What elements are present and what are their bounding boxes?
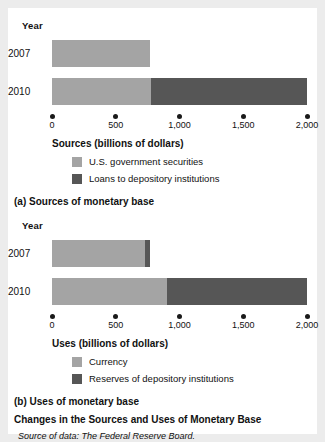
tick-dot-icon <box>177 314 182 319</box>
x-axis-tick-label: 2,000 <box>296 120 319 130</box>
legend-label: Currency <box>89 355 128 369</box>
tick-dot-icon <box>177 114 182 119</box>
tick-dot-icon <box>305 314 310 319</box>
bar-row-year-label: 2010 <box>8 278 46 305</box>
tick-dot-icon <box>241 314 246 319</box>
tick-dot-icon <box>241 114 246 119</box>
stacked-bar <box>52 278 307 305</box>
bar-row: 2007 <box>8 40 317 67</box>
stacked-bar <box>52 40 307 67</box>
legend-color-swatch <box>72 157 82 167</box>
x-axis-tick-label: 0 <box>49 320 54 330</box>
x-axis-uses: 05001,0001,5002,000 <box>52 314 317 336</box>
bar-row-year-label: 2007 <box>8 240 46 267</box>
x-axis-title-sources: Sources (billions of dollars) <box>52 138 184 149</box>
stacked-bar <box>52 78 307 105</box>
x-axis-tick-label: 0 <box>49 120 54 130</box>
x-axis-sources: 05001,0001,5002,000 <box>52 114 317 136</box>
x-axis-tick-label: 1,000 <box>168 120 191 130</box>
x-axis-tick-label: 1,500 <box>232 320 255 330</box>
bar-segment <box>52 78 151 105</box>
bar-row: 2007 <box>8 240 317 267</box>
legend-color-swatch <box>72 174 82 184</box>
figure-title: Changes in the Sources and Uses of Monet… <box>14 414 261 425</box>
bar-row: 2010 <box>8 78 317 105</box>
legend-color-swatch <box>72 374 82 384</box>
tick-dot-icon <box>305 114 310 119</box>
plot-area-uses: 20072010 <box>8 240 317 312</box>
figure-panel: Year 20072010 05001,0001,5002,000 Source… <box>8 8 317 434</box>
x-axis-tick-label: 2,000 <box>296 320 319 330</box>
plot-area-sources: 20072010 <box>8 40 317 112</box>
caption-panel-b: (b) Uses of monetary base <box>14 396 139 407</box>
legend-label: Loans to depository institutions <box>89 172 219 186</box>
bar-segment <box>52 40 150 67</box>
caption-panel-a: (a) Sources of monetary base <box>14 196 154 207</box>
tick-dot-icon <box>50 114 55 119</box>
source-of-data-note: Source of data: The Federal Reserve Boar… <box>18 431 195 441</box>
bar-segment <box>151 78 307 105</box>
bar-row: 2010 <box>8 278 317 305</box>
x-axis-tick-label: 1,500 <box>232 120 255 130</box>
x-axis-tick-label: 1,000 <box>168 320 191 330</box>
year-axis-header-b: Year <box>22 220 43 231</box>
x-axis-tick-label: 500 <box>108 320 123 330</box>
tick-dot-icon <box>113 114 118 119</box>
x-axis-title-uses: Uses (billions of dollars) <box>52 338 168 349</box>
year-axis-header-a: Year <box>22 20 43 31</box>
bar-segment <box>52 240 145 267</box>
legend-color-swatch <box>72 357 82 367</box>
stacked-bar <box>52 240 307 267</box>
bar-row-year-label: 2007 <box>8 40 46 67</box>
bar-segment <box>52 278 167 305</box>
tick-dot-icon <box>50 314 55 319</box>
legend-label: U.S. government securities <box>89 155 203 169</box>
tick-dot-icon <box>113 314 118 319</box>
x-axis-tick-label: 500 <box>108 120 123 130</box>
legend-label: Reserves of depository institutions <box>89 372 234 386</box>
bar-segment <box>145 240 150 267</box>
bar-row-year-label: 2010 <box>8 78 46 105</box>
bar-segment <box>167 278 307 305</box>
